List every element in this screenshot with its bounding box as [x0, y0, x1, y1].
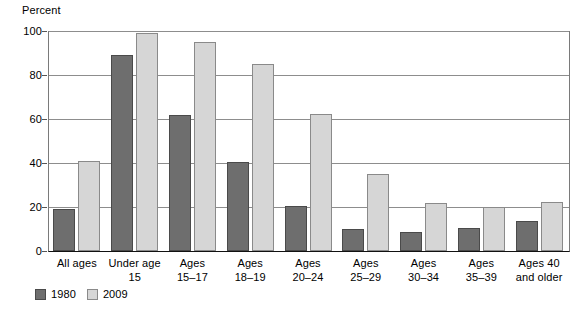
x-axis-label-line: 15	[106, 270, 164, 284]
legend-label: 1980	[51, 289, 76, 300]
x-axis-label-line: Ages	[395, 256, 453, 270]
x-axis-label: Ages30–34	[395, 256, 453, 284]
bar	[458, 228, 480, 251]
bar	[111, 55, 133, 251]
x-axis-label-line: 35–39	[452, 270, 510, 284]
bar	[78, 161, 100, 251]
bar	[227, 162, 249, 251]
x-axis-label-line: Ages	[337, 256, 395, 270]
bar	[310, 114, 332, 252]
x-axis-label-line: 18–19	[221, 270, 279, 284]
y-tick-label: 40	[2, 158, 42, 169]
bars-layer	[48, 31, 568, 251]
bar	[342, 229, 364, 251]
x-axis-label-line: and older	[510, 270, 568, 284]
bar	[400, 232, 422, 251]
bar	[425, 203, 447, 251]
y-tick-label: 100	[2, 26, 42, 37]
x-axis-label-line: 25–29	[337, 270, 395, 284]
y-tick-mark	[42, 119, 47, 120]
bar	[483, 207, 505, 251]
bar	[169, 115, 191, 251]
bar	[53, 209, 75, 251]
bar	[194, 42, 216, 251]
bar	[136, 33, 158, 251]
x-axis-label-line: Ages	[164, 256, 222, 270]
y-tick-mark	[42, 251, 47, 252]
legend-swatch	[35, 289, 46, 300]
y-tick-mark	[42, 163, 47, 164]
x-axis-label: Ages20–24	[279, 256, 337, 284]
x-axis-label-line: 20–24	[279, 270, 337, 284]
x-axis-label-line: 15–17	[164, 270, 222, 284]
legend-swatch	[87, 289, 98, 300]
y-tick-mark	[42, 207, 47, 208]
bar	[367, 174, 389, 251]
x-axis-label-line: All ages	[48, 256, 106, 270]
x-axis-label-line: Ages 40	[510, 256, 568, 270]
x-axis-label: Ages18–19	[221, 256, 279, 284]
x-axis-label-line: Ages	[279, 256, 337, 270]
legend-entry: 2009	[87, 289, 128, 300]
y-tick-label: 60	[2, 114, 42, 125]
y-tick-label: 80	[2, 70, 42, 81]
x-axis-label: Ages25–29	[337, 256, 395, 284]
x-axis-label-line: 30–34	[395, 270, 453, 284]
bar-chart: Percent 020406080100 All agesUnder age15…	[0, 0, 583, 317]
legend-label: 2009	[103, 289, 128, 300]
x-axis-label: Ages 40and older	[510, 256, 568, 284]
y-tick-label: 20	[2, 202, 42, 213]
x-axis-label-line: Ages	[221, 256, 279, 270]
bar	[285, 206, 307, 251]
bar	[252, 64, 274, 251]
x-axis-label-line: Ages	[452, 256, 510, 270]
legend-entry: 1980	[35, 289, 76, 300]
x-axis-label: All ages	[48, 256, 106, 270]
x-axis-label: Ages35–39	[452, 256, 510, 284]
x-axis-label: Under age15	[106, 256, 164, 284]
bar	[541, 202, 563, 252]
x-axis-labels: All agesUnder age15Ages15–17Ages18–19Age…	[48, 256, 568, 290]
x-axis-label-line: Under age	[106, 256, 164, 270]
y-tick-mark	[42, 75, 47, 76]
bar	[516, 221, 538, 251]
y-tick-label: 0	[2, 246, 42, 257]
y-axis-title: Percent	[22, 4, 61, 17]
x-axis-label: Ages15–17	[164, 256, 222, 284]
y-tick-mark	[42, 31, 47, 32]
chart-legend: 19802009	[35, 289, 128, 300]
